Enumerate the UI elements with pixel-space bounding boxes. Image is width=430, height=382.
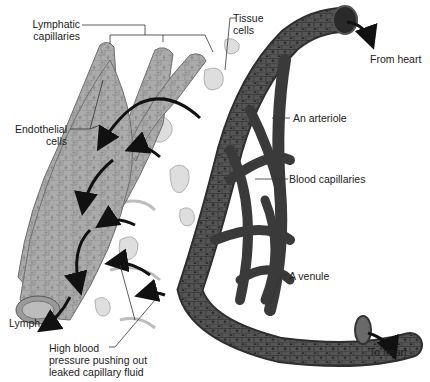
label-line: Endothelial bbox=[0, 123, 67, 135]
label-line: cells bbox=[233, 24, 264, 36]
label-lymphatic-capillaries: Lymphatic capillaries bbox=[8, 18, 80, 42]
label-lymph: Lymph bbox=[9, 317, 40, 329]
label-line: leaked capillary fluid bbox=[49, 366, 147, 378]
label-line: pressure pushing out bbox=[49, 354, 147, 366]
label-from-heart: From heart bbox=[370, 53, 421, 65]
label-arteriole: An arteriole bbox=[293, 112, 347, 124]
diagram-illustration bbox=[0, 0, 430, 382]
label-line: capillaries bbox=[8, 30, 80, 42]
label-blood-capillaries: Blood capillaries bbox=[289, 173, 365, 185]
label-line: High blood bbox=[49, 342, 147, 354]
label-line: Lymphatic bbox=[8, 18, 80, 30]
label-high-blood-pressure: High blood pressure pushing out leaked c… bbox=[49, 342, 147, 378]
label-venule: A venule bbox=[289, 270, 329, 282]
label-endothelial-cells: Endothelial cells bbox=[0, 123, 67, 147]
label-to-heart: To heart bbox=[369, 346, 407, 358]
label-line: Tissue bbox=[233, 12, 264, 24]
label-line: cells bbox=[0, 135, 67, 147]
label-tissue-cells: Tissue cells bbox=[233, 12, 264, 36]
diagram-canvas: Lymphatic capillaries Tissue cells From … bbox=[0, 0, 430, 382]
